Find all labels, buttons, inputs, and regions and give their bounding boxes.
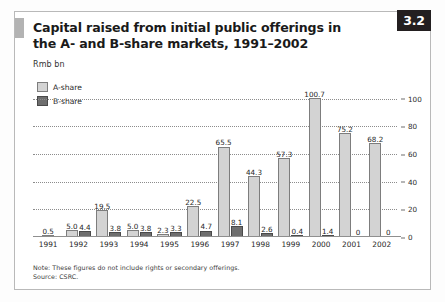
- bar-value-label: 22.5: [185, 199, 201, 206]
- bar-group: 0.5: [33, 74, 63, 237]
- chart-card: 3.2 Capital raised from initial public o…: [14, 11, 431, 290]
- bar-group: 68.20: [367, 74, 397, 237]
- bar-value-label: 100.7: [304, 91, 325, 98]
- bar-value-label: 65.5: [216, 139, 232, 146]
- chart-footer: Note: These figures do not include right…: [33, 263, 403, 281]
- x-axis-label-1992: 1992: [63, 240, 93, 249]
- x-axis-label-1995: 1995: [154, 240, 184, 249]
- bar-a-share-2002: 68.2: [369, 143, 381, 237]
- bar-value-label: 1.4: [322, 228, 333, 235]
- bar-value-label: 68.2: [367, 136, 383, 143]
- x-axis-label-1996: 1996: [185, 240, 215, 249]
- bar-group: 100.71.4: [306, 74, 336, 237]
- bar-value-label: 4.7: [201, 223, 212, 230]
- x-axis-label-1999: 1999: [276, 240, 306, 249]
- y-tick-mark: [401, 154, 405, 155]
- figure-number-badge: 3.2: [397, 10, 431, 31]
- x-axis-label-1991: 1991: [33, 240, 63, 249]
- bar-value-label: 5.0: [66, 223, 77, 230]
- y-axis-tick-label: 0: [401, 233, 413, 242]
- bar-value-label: 4.4: [79, 224, 90, 231]
- bar-a-share-2001: 75.2: [339, 133, 351, 237]
- bar-a-share-1999: 57.3: [278, 158, 290, 237]
- x-axis-label-1994: 1994: [124, 240, 154, 249]
- y-tick-mark: [401, 99, 405, 100]
- plot-canvas: 020406080100 0.55.04.419.53.85.03.82.33.…: [33, 74, 397, 237]
- bar-value-label: 8.1: [231, 219, 242, 226]
- unit-label: Rmb bn: [33, 60, 65, 69]
- bar-value-label: 19.5: [94, 203, 110, 210]
- x-axis-label-2000: 2000: [306, 240, 336, 249]
- footnote-note: Note: These figures do not include right…: [33, 263, 403, 272]
- y-tick-mark: [401, 127, 405, 128]
- y-axis-tick-label: 20: [401, 205, 417, 214]
- x-axis-label-2001: 2001: [336, 240, 366, 249]
- bar-value-label: 2.6: [261, 226, 272, 233]
- bar-group: 22.54.7: [185, 74, 215, 237]
- x-axis-label-1997: 1997: [215, 240, 245, 249]
- footnote-source: Source: CSRC.: [33, 272, 403, 281]
- bar-value-label: 75.2: [337, 126, 353, 133]
- bar-group: 57.30.4: [276, 74, 306, 237]
- bar-a-share-1993: 19.5: [96, 210, 108, 237]
- bar-group: 44.32.6: [245, 74, 275, 237]
- y-axis-tick-label: 100: [401, 94, 422, 103]
- bar-a-share-1998: 44.3: [248, 176, 260, 237]
- y-axis-tick-label: 60: [401, 150, 417, 159]
- bar-group: 5.03.8: [124, 74, 154, 237]
- bar-a-share-2000: 100.7: [309, 98, 321, 237]
- bar-value-label: 57.3: [276, 151, 292, 158]
- bar-value-label: 0: [356, 229, 361, 236]
- x-axis-label-2002: 2002: [367, 240, 397, 249]
- y-axis-tick-label: 40: [401, 177, 417, 186]
- plot-area: 020406080100 0.55.04.419.53.85.03.82.33.…: [33, 74, 415, 254]
- x-axis-line: [33, 236, 401, 237]
- chart-page: 3.2 Capital raised from initial public o…: [0, 0, 445, 302]
- x-axis-labels: 1991199219931994199519961997199819992000…: [33, 240, 397, 249]
- y-tick-mark: [401, 237, 405, 238]
- bar-group: 75.20: [336, 74, 366, 237]
- y-tick-mark: [401, 209, 405, 210]
- bar-value-label: 3.3: [170, 225, 181, 232]
- accent-square: [15, 18, 24, 38]
- card-header: 3.2 Capital raised from initial public o…: [15, 12, 430, 70]
- y-tick-mark: [401, 182, 405, 183]
- bar-value-label: 0: [386, 229, 391, 236]
- bar-value-label: 5.0: [127, 223, 138, 230]
- bar-value-label: 2.3: [157, 227, 168, 234]
- bar-a-share-1997: 65.5: [218, 147, 230, 237]
- bar-group: 5.04.4: [63, 74, 93, 237]
- bar-groups: 0.55.04.419.53.85.03.82.33.322.54.765.58…: [33, 74, 397, 237]
- bar-group: 65.58.1: [215, 74, 245, 237]
- x-axis-label-1998: 1998: [245, 240, 275, 249]
- bar-value-label: 0.4: [292, 228, 303, 235]
- x-axis-label-1993: 1993: [94, 240, 124, 249]
- bar-value-label: 0.5: [42, 228, 53, 235]
- bar-group: 19.53.8: [94, 74, 124, 237]
- bar-value-label: 3.8: [140, 225, 151, 232]
- bar-a-share-1996: 22.5: [187, 206, 199, 237]
- y-axis-tick-label: 80: [401, 122, 417, 131]
- bar-value-label: 44.3: [246, 169, 262, 176]
- bar-value-label: 3.8: [110, 225, 121, 232]
- page-title: Capital raised from initial public offer…: [33, 20, 363, 51]
- bar-group: 2.33.3: [154, 74, 184, 237]
